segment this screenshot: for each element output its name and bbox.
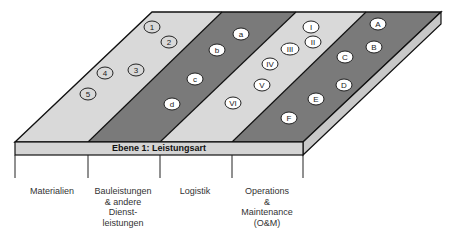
marker-a: a	[233, 28, 249, 40]
marker-I: I	[303, 21, 319, 33]
svg-text:II: II	[311, 38, 315, 47]
svg-text:III: III	[287, 45, 294, 54]
svg-text:A: A	[375, 20, 381, 29]
marker-V: V	[254, 79, 270, 91]
marker-2: 2	[161, 36, 177, 48]
svg-text:VI: VI	[229, 99, 237, 108]
marker-E: E	[308, 93, 324, 105]
svg-text:b: b	[215, 46, 220, 55]
svg-text:V: V	[259, 81, 265, 90]
marker-D: D	[336, 79, 352, 91]
svg-text:C: C	[342, 53, 348, 62]
svg-text:B: B	[371, 43, 376, 52]
svg-text:5: 5	[86, 90, 91, 99]
svg-text:F: F	[287, 114, 292, 123]
marker-A: A	[370, 18, 386, 30]
marker-5: 5	[80, 88, 96, 100]
level-title: Ebene 1: Leistungsart	[15, 142, 303, 155]
svg-text:a: a	[239, 30, 244, 39]
svg-text:1: 1	[150, 23, 155, 32]
svg-text:IV: IV	[266, 60, 274, 69]
marker-b: b	[209, 44, 225, 56]
marker-1: 1	[144, 21, 160, 33]
marker-C: C	[337, 51, 353, 63]
marker-III: III	[281, 43, 299, 55]
marker-c: c	[187, 73, 203, 85]
marker-II: II	[305, 36, 321, 48]
svg-text:3: 3	[134, 66, 139, 75]
marker-F: F	[281, 112, 297, 124]
marker-d: d	[164, 98, 180, 110]
svg-text:c: c	[193, 75, 197, 84]
marker-3: 3	[128, 64, 144, 76]
marker-B: B	[366, 41, 382, 53]
column-label-om: Operations & Maintenance (O&M)	[222, 186, 312, 228]
svg-text:4: 4	[103, 69, 108, 78]
svg-text:2: 2	[167, 38, 172, 47]
svg-text:d: d	[170, 100, 174, 109]
marker-VI: VI	[225, 97, 241, 109]
svg-text:I: I	[310, 23, 312, 32]
marker-4: 4	[97, 67, 113, 79]
svg-text:D: D	[341, 81, 347, 90]
marker-IV: IV	[262, 58, 278, 70]
svg-text:E: E	[313, 95, 318, 104]
